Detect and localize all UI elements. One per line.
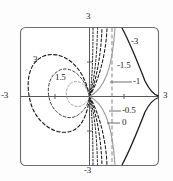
level-label-minus-3: -3	[131, 37, 138, 46]
figure-container: 3 -3 -3 3 3 1.5 -3 -1.5 -1 -0.5 0	[0, 0, 173, 181]
axis-label-bottom: -3	[84, 166, 91, 175]
level-label-minus-1-5: -1.5	[117, 61, 130, 70]
level-label-3: 3	[33, 55, 37, 64]
axis-label-top: 3	[86, 12, 90, 21]
contour-plot	[0, 0, 173, 181]
level-label-minus-0-5: -0.5	[122, 106, 135, 115]
level-label-minus-1: -1	[133, 77, 140, 86]
level-label-0: 0	[122, 118, 126, 127]
level-label-1-5: 1.5	[55, 73, 66, 82]
axis-label-right: 3	[163, 91, 167, 100]
axis-label-left: -3	[1, 91, 8, 100]
